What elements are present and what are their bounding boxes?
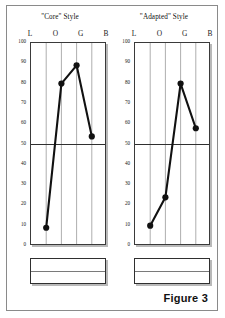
y-tick-30: 30 (125, 182, 130, 187)
column-header-l: L (127, 29, 141, 38)
data-point-o (58, 81, 64, 87)
data-point-g (74, 62, 80, 68)
plot-area-core (30, 42, 106, 245)
chart-title-core: "Core" Style (10, 13, 110, 21)
chart-title-adapted: "Adapted" Style (114, 13, 214, 21)
y-tick-0: 0 (23, 242, 26, 247)
data-point-b (193, 125, 199, 131)
y-tick-10: 10 (21, 222, 26, 227)
data-point-o (162, 194, 168, 200)
y-tick-100: 100 (18, 39, 26, 44)
y-axis-labels-adapted: 100 90 80 70 60 50 40 30 20 10 0 (114, 42, 132, 245)
chart-panel-core: "Core" Style L O G B 100 90 80 70 60 50 … (10, 11, 110, 251)
y-tick-80: 80 (125, 80, 130, 85)
chart-panel-adapted: "Adapted" Style L O G B 100 90 80 70 60 … (114, 11, 214, 251)
line-chart-core (31, 43, 106, 245)
y-tick-20: 20 (21, 202, 26, 207)
column-header-o: O (152, 29, 166, 38)
data-point-l (147, 223, 153, 229)
legend-box-adapted-bottom-text (138, 271, 206, 283)
figure-root: "Core" Style L O G B 100 90 80 70 60 50 … (0, 0, 225, 318)
y-tick-60: 60 (125, 121, 130, 126)
column-header-g: G (74, 29, 88, 38)
line-chart-adapted (135, 43, 210, 245)
y-tick-50: 50 (125, 141, 130, 146)
column-header-o: O (48, 29, 62, 38)
legend-box-core-bottom-text (34, 271, 102, 283)
y-tick-70: 70 (125, 100, 130, 105)
y-tick-50: 50 (21, 141, 26, 146)
y-tick-30: 30 (21, 182, 26, 187)
legend-box-core (30, 258, 106, 284)
legend-box-adapted (134, 258, 210, 284)
y-tick-90: 90 (125, 60, 130, 65)
y-tick-20: 20 (125, 202, 130, 207)
data-line (150, 84, 196, 226)
y-tick-40: 40 (125, 161, 130, 166)
column-header-g: G (178, 29, 192, 38)
data-point-l (43, 225, 49, 231)
y-tick-10: 10 (125, 222, 130, 227)
column-header-b: B (203, 29, 217, 38)
y-tick-100: 100 (122, 39, 130, 44)
legend-box-core-top-text (34, 259, 102, 271)
y-tick-70: 70 (21, 100, 26, 105)
data-point-b (89, 133, 95, 139)
chart-panels: "Core" Style L O G B 100 90 80 70 60 50 … (6, 5, 218, 311)
plot-area-adapted (134, 42, 210, 245)
column-header-b: B (99, 29, 113, 38)
y-tick-0: 0 (127, 242, 130, 247)
legend-box-adapted-top-text (138, 259, 206, 271)
column-headers-adapted: L O G B (134, 29, 210, 40)
y-tick-80: 80 (21, 80, 26, 85)
data-line (46, 65, 92, 227)
y-tick-40: 40 (21, 161, 26, 166)
figure-caption: Figure 3 (164, 292, 208, 304)
y-tick-90: 90 (21, 60, 26, 65)
y-axis-labels-core: 100 90 80 70 60 50 40 30 20 10 0 (10, 42, 28, 245)
column-headers-core: L O G B (30, 29, 106, 40)
data-point-g (178, 81, 184, 87)
y-tick-60: 60 (21, 121, 26, 126)
column-header-l: L (23, 29, 37, 38)
